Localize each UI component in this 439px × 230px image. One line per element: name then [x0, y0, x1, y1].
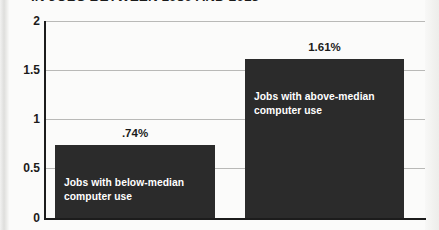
- bar-value-below-median: .74%: [55, 127, 215, 139]
- y-tick-0: 0: [6, 211, 40, 225]
- y-tick-2: 2: [6, 14, 40, 28]
- page-edge-right: [425, 0, 439, 230]
- bar-above-median-computer-use[interactable]: Jobs with above-median computer use: [245, 59, 404, 218]
- y-tick-1-5: 1.5: [6, 63, 40, 77]
- chart-title: IN JOBS BETWEEN 1980 AND 2013: [31, 0, 361, 4]
- bar-label-below-median: Jobs with below-median computer use: [64, 176, 209, 203]
- y-tick-1: 1: [6, 112, 40, 126]
- y-tick-0-5: 0.5: [6, 161, 40, 175]
- bar-below-median-computer-use[interactable]: Jobs with below-median computer use: [55, 145, 215, 218]
- bar-label-above-median: Jobs with above-median computer use: [254, 90, 398, 117]
- gridline-2: [44, 21, 425, 22]
- chart-figure: IN JOBS BETWEEN 1980 AND 2013 2 1.5 1 0.…: [0, 0, 439, 230]
- x-axis-line: [44, 218, 426, 220]
- y-axis-tick-labels: 2 1.5 1 0.5 0: [0, 0, 40, 230]
- y-axis-line: [44, 21, 46, 219]
- bar-value-above-median: 1.61%: [245, 41, 404, 53]
